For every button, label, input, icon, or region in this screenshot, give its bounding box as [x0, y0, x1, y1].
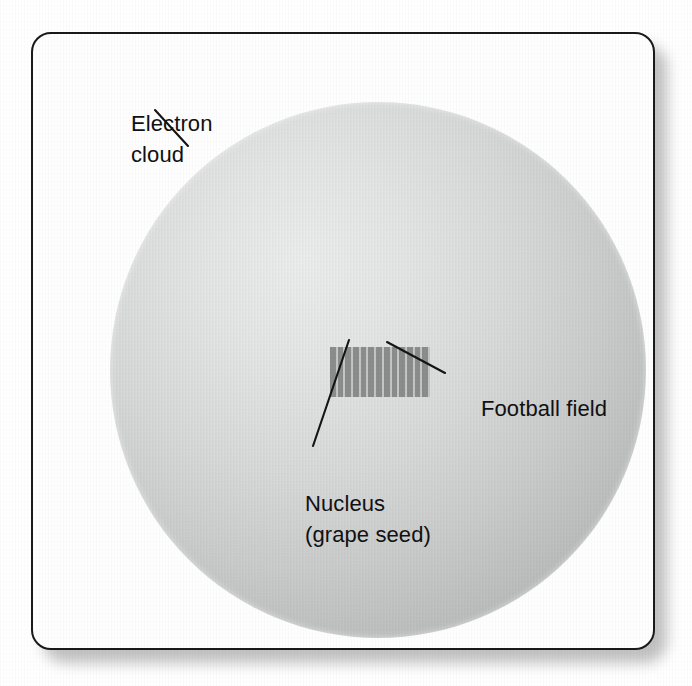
scanned-page: bleed-through text from reverse side of … — [0, 0, 692, 686]
label-electron-cloud: Electron cloud — [131, 108, 213, 170]
label-nucleus: Nucleus (grape seed) — [305, 488, 431, 550]
football-field-patch — [330, 347, 430, 397]
label-football-field: Football field — [481, 393, 607, 424]
label-nucleus-line1: Nucleus — [305, 488, 431, 519]
label-electron-cloud-line1: Electron — [131, 108, 213, 139]
football-field-stripes — [330, 347, 430, 397]
figure-frame: bleed-through text from reverse side of … — [31, 32, 655, 650]
label-nucleus-line2: (grape seed) — [305, 519, 431, 550]
label-electron-cloud-line2: cloud — [131, 139, 213, 170]
